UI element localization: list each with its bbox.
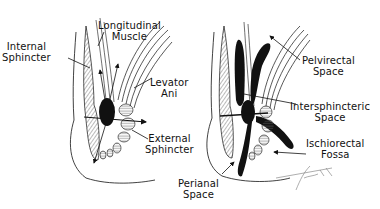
label-internal-sphincter: Internal Sphincter [2,41,51,63]
left-panel-drawing [68,18,172,183]
anatomy-figure: Internal Sphincter Longitudinal Muscle L… [0,0,380,209]
label-longitudinal-muscle: Longitudinal Muscle [98,20,161,42]
label-perianal-space: Perianal Space [178,178,219,200]
label-intersphincteric-space: Intersphincteric Space [290,101,370,123]
label-ischiorectal-fossa: Ischiorectal Fossa [306,138,364,160]
label-levator-ani: Levator Ani [150,77,188,99]
label-pelvirectal-space: Pelvirectal Space [302,55,355,77]
label-external-sphincter: External Sphincter [145,133,194,155]
